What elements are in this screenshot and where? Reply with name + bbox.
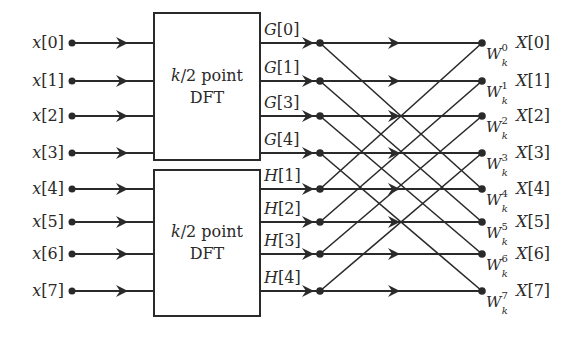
dft-block-top-line1: k/2 point: [171, 66, 244, 85]
block-output-label-0: G[0]: [264, 20, 299, 39]
input-label-4: x[4]: [32, 179, 64, 198]
output-label-3: X[3]: [514, 143, 550, 162]
twiddle-label-5: W5k: [486, 221, 508, 247]
input-label-7: x[7]: [32, 281, 64, 300]
output-label-0: X[0]: [514, 33, 550, 52]
dft-block-bottom-line2: DFT: [190, 244, 225, 263]
twiddle-label-7: W7k: [486, 290, 508, 316]
block-output-label-4: H[1]: [263, 166, 301, 185]
twiddle-label-2: W2k: [486, 115, 508, 141]
output-label-6: X[6]: [514, 244, 550, 263]
input-label-6: x[6]: [32, 244, 64, 263]
input-label-5: x[5]: [32, 212, 64, 231]
block-output-label-1: G[1]: [264, 58, 299, 77]
dft-block-bottom-line1: k/2 point: [171, 222, 244, 241]
input-label-2: x[2]: [32, 106, 64, 125]
twiddle-label-0: W0k: [486, 42, 508, 68]
block-output-label-7: H[4]: [263, 268, 301, 287]
output-label-2: X[2]: [514, 106, 550, 125]
output-node-6: [478, 250, 486, 258]
output-node-4: [478, 185, 486, 193]
block-output-label-3: G[4]: [264, 130, 299, 149]
output-node-5: [478, 218, 486, 226]
input-label-3: x[3]: [32, 143, 64, 162]
fft-butterfly-diagram: k/2 point DFT k/2 point DFT x[0]G[0]W0kX…: [0, 0, 588, 339]
block-output-label-6: H[3]: [263, 231, 301, 250]
dft-block-top: [154, 13, 260, 160]
twiddle-label-3: W3k: [486, 152, 508, 178]
twiddle-label-4: W4k: [486, 188, 508, 214]
input-label-1: x[1]: [32, 71, 64, 90]
block-output-label-2: G[3]: [264, 93, 299, 112]
output-node-7: [478, 287, 486, 295]
twiddle-label-1: W1k: [486, 80, 508, 106]
input-label-0: x[0]: [32, 33, 64, 52]
block-output-label-5: H[2]: [263, 199, 301, 218]
twiddle-label-6: W6k: [486, 253, 508, 279]
output-label-5: X[5]: [514, 212, 550, 231]
dft-block-bottom: [154, 170, 260, 316]
output-label-7: X[7]: [514, 281, 550, 300]
output-label-4: X[4]: [514, 179, 550, 198]
output-label-1: X[1]: [514, 71, 550, 90]
dft-block-top-line2: DFT: [190, 88, 225, 107]
